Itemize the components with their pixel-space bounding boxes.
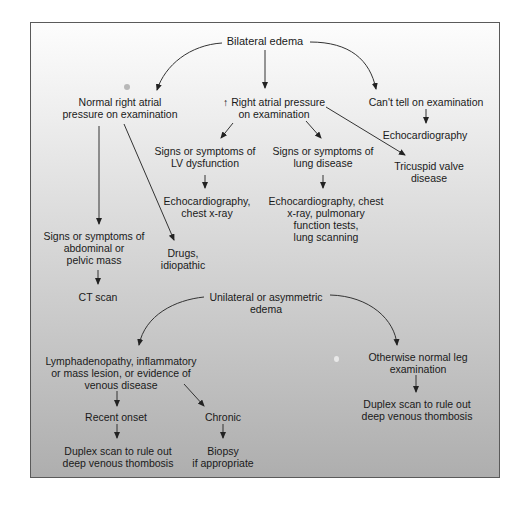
node-lung-disease: Signs or symptoms of lung disease: [273, 145, 374, 169]
arrow-bilateral-to-canttell: [310, 42, 376, 89]
node-cant-tell: Can't tell on examination: [369, 96, 484, 108]
node-biopsy: Biopsy if appropriate: [192, 445, 253, 469]
arrow-high-to-lv: [221, 123, 233, 138]
node-tricuspid-valve-disease: Tricuspid valve disease: [394, 160, 464, 184]
node-elevated-right-atrial-pressure: ↑Right atrial pressure on examination: [223, 96, 325, 120]
arrow-high-to-lung: [306, 121, 321, 138]
node-echo-chest-xray: Echocardiography, chest x-ray: [164, 195, 251, 219]
up-arrow-icon: ↑: [223, 96, 228, 108]
arrow-unilateral-to-normalleg: [330, 295, 397, 345]
node-duplex-scan-left: Duplex scan to rule out deep venous thom…: [63, 445, 174, 469]
node-ct-scan: CT scan: [79, 291, 118, 303]
node-abdominal-pelvic-mass: Signs or symptoms of abdominal or pelvic…: [44, 230, 145, 266]
arrow-normal-to-drugs: [124, 124, 174, 240]
node-lung-tests: Echocardiography, chest x-ray, pulmonary…: [269, 195, 384, 243]
node-echocardiography: Echocardiography: [383, 129, 468, 141]
node-duplex-scan-right: Duplex scan to rule out deep venous thom…: [362, 398, 473, 422]
arrow-bilateral-to-normal: [157, 43, 222, 90]
node-lv-dysfunction: Signs or symptoms of LV dysfunction: [155, 145, 256, 169]
node-lymphadenopathy: Lymphadenopathy, inflammatory or mass le…: [45, 355, 196, 391]
node-chronic: Chronic: [205, 411, 241, 423]
node-normal-right-atrial-pressure: Normal right atrial pressure on examinat…: [63, 96, 178, 120]
node-otherwise-normal-leg: Otherwise normal leg examination: [368, 351, 467, 375]
node-drugs-idiopathic: Drugs, idiopathic: [161, 247, 205, 271]
arrow-unilateral-to-lymph: [139, 297, 204, 345]
node-recent-onset: Recent onset: [85, 411, 147, 423]
node-unilateral-edema: Unilateral or asymmetric edema: [209, 291, 322, 315]
node-bilateral-edema: Bilateral edema: [227, 35, 303, 47]
